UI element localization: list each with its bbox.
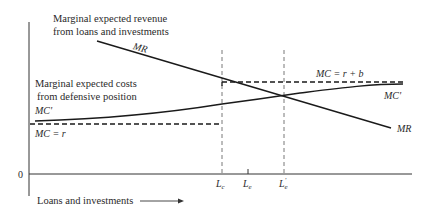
tick-label-le: Le [242,178,252,191]
tick-label-lc: Lc [215,178,226,191]
costs-annotation-line1: Marginal expected costs [35,78,137,89]
revenue-annotation-line2: from loans and investments [53,26,169,37]
mc-prime-label-right: MC' [383,90,402,101]
mc-rb-label: MC = r + b [315,68,363,79]
mr-label-top: MR [131,40,149,55]
x-axis-arrow-head-icon [178,199,184,204]
mc-r-label: MC = r [34,128,66,139]
svg-text:Le': Le' [278,176,288,191]
x-axis-label: Loans and investments [37,195,133,206]
revenue-annotation-line1: Marginal expected revenue [53,13,167,24]
costs-annotation-line2: from defensive position [37,91,137,102]
mr-label-end: MR [396,123,411,134]
svg-text:Lc: Lc [215,178,226,191]
diagram-canvas: 0 Marginal expected revenue from loans a… [0,0,430,216]
tick-label-le-prime: Le' [278,176,288,191]
mc-prime-label-left: MC' [34,105,53,116]
origin-label: 0 [18,169,23,180]
svg-text:Le: Le [242,178,252,191]
